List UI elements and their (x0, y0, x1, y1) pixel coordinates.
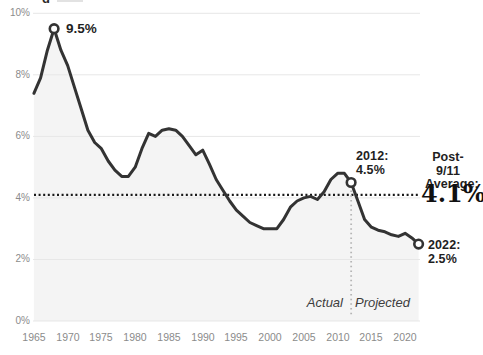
x-tick-1980: 1980 (118, 331, 152, 344)
x-tick-1965: 1965 (17, 331, 51, 344)
x-tick-2000: 2000 (253, 331, 287, 344)
callout-2022-value: 2.5% (428, 253, 460, 267)
x-tick-1975: 1975 (84, 331, 118, 344)
marker-1968 (50, 24, 59, 33)
callout-2022-year: 2022: (428, 239, 460, 253)
defense-spending-line-chart: g 10%8%6%4%2%0% 196519701975198019851990… (0, 0, 483, 355)
y-tick-0pct: 0% (2, 315, 30, 327)
post911-average-value: 4.1% (421, 180, 473, 207)
actual-phase-label: Actual (283, 296, 343, 310)
y-tick-10pct: 10% (2, 7, 30, 19)
x-tick-1970: 1970 (51, 331, 85, 344)
x-tick-1995: 1995 (219, 331, 253, 344)
x-tick-2020: 2020 (388, 331, 422, 344)
marker-2022 (414, 240, 423, 249)
callout-2022: 2022: 2.5% (428, 239, 460, 266)
callout-2012-value: 4.5% (356, 164, 388, 178)
post911-average-caption-line1: Post-9/11 (425, 151, 471, 178)
callout-2012: 2012: 4.5% (356, 150, 388, 177)
x-tick-1990: 1990 (186, 331, 220, 344)
y-tick-4pct: 4% (2, 192, 30, 204)
x-tick-2015: 2015 (354, 331, 388, 344)
x-tick-2005: 2005 (287, 331, 321, 344)
projected-phase-label: Projected (355, 296, 435, 310)
peak-value-label: 9.5% (66, 21, 97, 36)
marker-2012 (347, 178, 356, 187)
x-tick-1985: 1985 (152, 331, 186, 344)
y-tick-6pct: 6% (2, 130, 30, 142)
y-tick-2pct: 2% (2, 253, 30, 265)
callout-2012-year: 2012: (356, 150, 388, 164)
x-tick-2010: 2010 (321, 331, 355, 344)
y-tick-8pct: 8% (2, 69, 30, 81)
